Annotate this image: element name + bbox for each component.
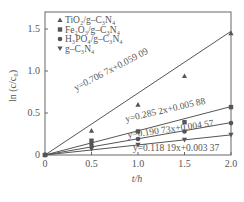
legend-entry: g–C₃N₄ (65, 44, 94, 54)
y-tick-label: 0.5 (28, 107, 41, 118)
legend: TiO₂/g–C₃N₄Fe₂O₃/g–C₃N₄H₃PO₄/g–C₃N₄g–C₃N… (57, 15, 122, 54)
fit-equation: y=0.190 73x+0.004 57 (127, 118, 215, 140)
x-tick-label: 1.0 (132, 158, 145, 169)
x-tick-label: 0 (43, 158, 48, 169)
y-tick-label: 1.0 (28, 65, 41, 76)
x-tick-label: 2.0 (225, 158, 238, 169)
y-axis-label: ln (c/c₀) (7, 70, 19, 102)
fit-equations: y=0.706 7x+0.059 09y=0.285 2x+0.005 88y=… (72, 46, 219, 153)
x-tick-label: 0.5 (85, 158, 98, 169)
fit-equation: y=0.118 19x+0.003 37 (133, 143, 220, 153)
y-tick-label: 1.5 (28, 23, 41, 34)
legend-entry: TiO₂/g–C₃N₄ (65, 15, 115, 25)
legend-entry: H₃PO₄/g–C₃N₄ (65, 34, 123, 44)
y-tick-label: 0 (35, 149, 40, 160)
x-axis-label: t/h (132, 173, 143, 184)
x-tick-label: 1.5 (178, 158, 191, 169)
legend-entry: Fe₂O₃/g–C₃N₄ (65, 25, 120, 35)
kinetics-chart: 00.51.01.52.000.51.01.5 y=0.706 7x+0.059… (0, 0, 244, 202)
